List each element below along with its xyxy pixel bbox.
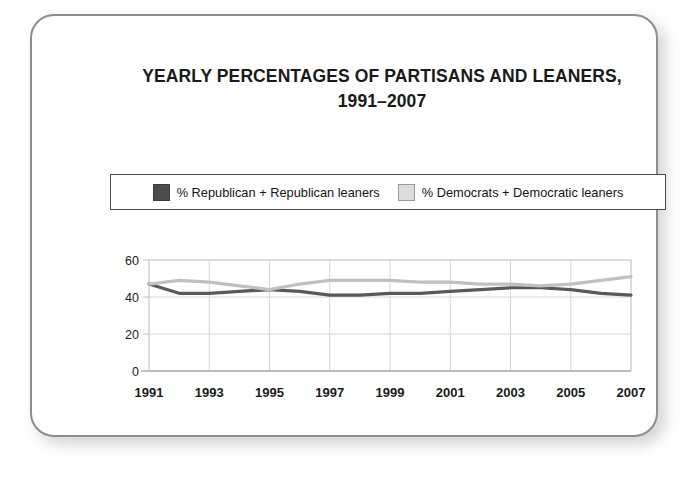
plot-area: 0204060 19911993199519971999200120032005… xyxy=(112,244,652,414)
chart-card: YEARLY PERCENTAGES OF PARTISANS AND LEAN… xyxy=(30,14,658,437)
legend-label-republican: % Republican + Republican leaners xyxy=(177,185,380,200)
ytick-label: 20 xyxy=(125,328,139,342)
xtick-label: 1993 xyxy=(195,385,224,400)
chart-title-line-2: 1991–2007 xyxy=(338,91,427,111)
figure-root: YEARLY PERCENTAGES OF PARTISANS AND LEAN… xyxy=(0,0,700,477)
ytick-label: 0 xyxy=(132,365,139,379)
legend-entry-democrat: % Democrats + Democratic leaners xyxy=(398,184,624,201)
xtick-layer: 199119931995199719992001200320052007 xyxy=(135,385,646,400)
legend-swatch-republican-icon xyxy=(153,184,170,201)
grid-layer xyxy=(149,260,631,371)
ytick-label: 40 xyxy=(125,291,139,305)
chart-legend: % Republican + Republican leaners % Demo… xyxy=(110,174,666,210)
chart-title: YEARLY PERCENTAGES OF PARTISANS AND LEAN… xyxy=(92,64,672,114)
axis-frame xyxy=(141,260,631,371)
xtick-label: 1997 xyxy=(315,385,344,400)
ytick-layer: 0204060 xyxy=(125,254,149,379)
legend-label-democrat: % Democrats + Democratic leaners xyxy=(422,185,624,200)
xtick-label: 1999 xyxy=(376,385,405,400)
xtick-label: 2001 xyxy=(436,385,465,400)
xtick-label: 2003 xyxy=(496,385,525,400)
xtick-label: 2005 xyxy=(556,385,585,400)
legend-entry-republican: % Republican + Republican leaners xyxy=(153,184,380,201)
chart-title-line-1: YEARLY PERCENTAGES OF PARTISANS AND LEAN… xyxy=(142,66,622,86)
legend-swatch-democrat-icon xyxy=(398,184,415,201)
xtick-label: 1991 xyxy=(135,385,164,400)
line-chart-svg: 0204060 19911993199519971999200120032005… xyxy=(112,244,652,414)
xtick-label: 2007 xyxy=(617,385,646,400)
ytick-label: 60 xyxy=(125,254,139,268)
xtick-label: 1995 xyxy=(255,385,284,400)
